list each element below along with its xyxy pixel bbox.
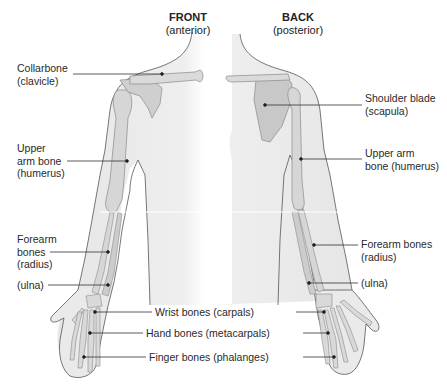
label-line: bones <box>17 246 57 259</box>
label-line: Collarbone <box>17 62 68 75</box>
back-view-title: BACK (posterior) <box>250 11 346 37</box>
label-line: Shoulder blade <box>365 92 436 105</box>
label-upper-arm-front: Upper arm bone (humerus) <box>17 142 65 180</box>
label-line: Wrist bones (carpals) <box>155 306 254 318</box>
back-subtitle: (posterior) <box>250 24 346 37</box>
label-line: (radius) <box>361 251 432 264</box>
label-shoulder-blade: Shoulder blade (scapula) <box>365 92 436 117</box>
label-line: Hand bones (metacarpals) <box>146 327 270 339</box>
label-line: (radius) <box>17 258 57 271</box>
front-view-title: FRONT (anterior) <box>140 11 236 37</box>
arm-bones-diagram: FRONT (anterior) BACK (posterior) Collar… <box>0 0 447 387</box>
label-line: Forearm bones <box>361 238 432 251</box>
label-hand-bones: Hand bones (metacarpals) <box>146 327 270 340</box>
label-finger-bones: Finger bones (phalanges) <box>149 351 269 364</box>
back-torso <box>205 34 379 374</box>
label-line: arm bone <box>17 155 65 168</box>
back-title: BACK <box>250 11 346 24</box>
label-wrist-bones: Wrist bones (carpals) <box>155 306 254 319</box>
label-line: (clavicle) <box>17 75 68 88</box>
label-line: (ulna) <box>361 277 388 290</box>
label-line: Finger bones (phalanges) <box>149 351 269 363</box>
front-title: FRONT <box>140 11 236 24</box>
label-upper-arm-back: Upper arm bone (humerus) <box>365 147 439 172</box>
label-line: (scapula) <box>365 105 436 118</box>
label-ulna-front: (ulna) <box>17 279 44 292</box>
label-line: Forearm <box>17 233 57 246</box>
label-ulna-back: (ulna) <box>361 277 388 290</box>
label-line: (ulna) <box>17 279 44 292</box>
label-line: Upper <box>17 142 65 155</box>
label-forearm-front: Forearm bones (radius) <box>17 233 57 271</box>
label-forearm-back: Forearm bones (radius) <box>361 238 432 263</box>
label-line: bone (humerus) <box>365 160 439 173</box>
label-line: Upper arm <box>365 147 439 160</box>
label-line: (humerus) <box>17 167 65 180</box>
label-collarbone: Collarbone (clavicle) <box>17 62 68 87</box>
front-subtitle: (anterior) <box>140 24 236 37</box>
